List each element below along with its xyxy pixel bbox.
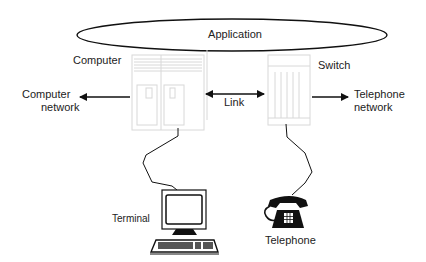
telephone-cable [286, 124, 312, 195]
telephone-network-label-line1: Telephone [354, 88, 405, 100]
switch-label: Switch [318, 59, 350, 71]
application-label: Application [0, 28, 426, 40]
computer-network-label-line1: Computer [22, 88, 70, 100]
telephone-label: Telephone [265, 234, 316, 246]
terminal-cable [143, 128, 178, 190]
telephone-icon [265, 196, 308, 228]
terminal-icon [150, 190, 219, 254]
switch-cabinet-icon [268, 55, 310, 125]
terminal-label: Terminal [112, 213, 150, 225]
computer-cabinet-icon [132, 50, 207, 130]
link-label: Link [224, 96, 244, 108]
computer-label: Computer [73, 54, 121, 66]
computer-network-label-line2: network [41, 101, 80, 113]
telephone-network-label-line2: network [354, 101, 393, 113]
